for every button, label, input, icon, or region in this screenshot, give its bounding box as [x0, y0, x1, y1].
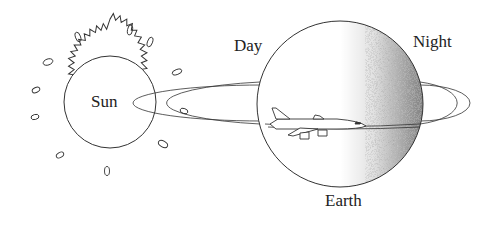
earth-label: Earth — [325, 192, 362, 209]
night-label: Night — [413, 33, 452, 50]
earth — [257, 20, 424, 190]
sun-label: Sun — [91, 93, 117, 110]
day-label: Day — [234, 37, 262, 54]
